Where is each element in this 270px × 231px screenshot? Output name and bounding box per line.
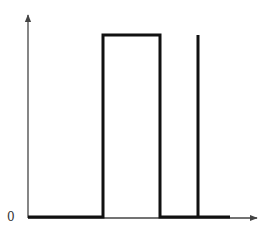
origin-label: 0 [7,210,15,224]
signal-waveform-line [28,35,230,217]
waveform-diagram: 0 [0,0,270,231]
